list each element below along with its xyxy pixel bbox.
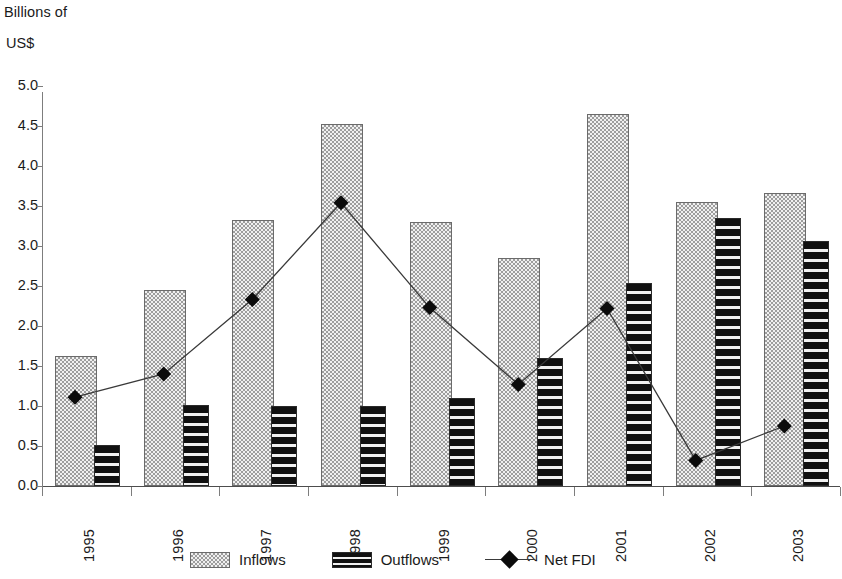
net-fdi-diamond-marker: [777, 419, 792, 434]
y-tick-label: 3.0: [2, 238, 38, 252]
x-tick-label: 2001: [613, 529, 629, 562]
y-tick-label: 3.5: [2, 198, 38, 212]
y-tick-label: 0.0: [2, 478, 38, 492]
legend-label-inflows: Inflows: [239, 551, 286, 568]
net-fdi-diamond-marker: [156, 367, 171, 382]
x-tick-mark: [131, 487, 132, 496]
x-tick-mark: [485, 487, 486, 496]
x-tick-mark: [840, 487, 841, 496]
netfdi-line-diamond-icon: [485, 553, 535, 567]
y-tick-label: 5.0: [2, 78, 38, 92]
legend-label-net-fdi: Net FDI: [544, 551, 596, 568]
net-fdi-diamond-marker: [68, 390, 83, 405]
y-tick-label: 4.5: [2, 118, 38, 132]
x-tick-mark: [219, 487, 220, 496]
y-tick-label: 1.5: [2, 358, 38, 372]
x-axis-line: [42, 486, 840, 487]
y-tick-label: 4.0: [2, 158, 38, 172]
legend-label-outflows: Outflows: [381, 551, 439, 568]
x-tick-label: 1995: [81, 529, 97, 562]
x-tick-label: 2003: [790, 529, 806, 562]
y-axis-tick-labels: 0.00.51.01.52.02.53.03.54.04.55.0: [0, 0, 38, 579]
x-tick-mark: [397, 487, 398, 496]
outflow-swatch-icon: [332, 552, 372, 568]
x-tick-mark: [663, 487, 664, 496]
y-tick-label: 1.0: [2, 398, 38, 412]
x-tick-mark: [42, 487, 43, 496]
legend-item-inflows: Inflows: [190, 551, 286, 568]
net-fdi-diamond-marker: [688, 453, 703, 468]
net-fdi-polyline: [75, 203, 784, 461]
x-tick-label: 2002: [702, 529, 718, 562]
plot-area: [42, 86, 840, 486]
net-fdi-markers: [68, 195, 792, 468]
fdi-combination-chart: Billions of US$ 0.00.51.01.52.02.53.03.5…: [0, 0, 842, 579]
inflow-swatch-icon: [190, 552, 230, 568]
y-tick-label: 0.5: [2, 438, 38, 452]
net-fdi-line-series: [42, 86, 840, 486]
x-tick-mark: [751, 487, 752, 496]
x-tick-mark: [308, 487, 309, 496]
chart-legend: Inflows Outflows Net FDI: [190, 551, 596, 568]
y-tick-label: 2.5: [2, 278, 38, 292]
y-tick-label: 2.0: [2, 318, 38, 332]
x-tick-label: 1996: [170, 529, 186, 562]
legend-item-net-fdi: Net FDI: [485, 551, 596, 568]
legend-item-outflows: Outflows: [332, 551, 439, 568]
x-tick-mark: [574, 487, 575, 496]
